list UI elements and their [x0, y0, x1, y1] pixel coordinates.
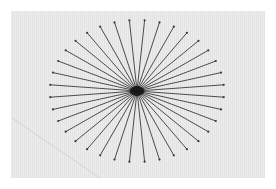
ray-tip-dot: [86, 148, 88, 150]
starburst-ray: [137, 91, 187, 149]
ray-tip-dot: [65, 49, 67, 51]
ray-tip-dot: [144, 161, 146, 163]
starburst-ray: [87, 91, 137, 149]
ray-tip-dot: [173, 154, 175, 156]
starburst-pattern: [0, 0, 276, 189]
starburst-ray: [137, 50, 208, 91]
ray-tip-dot: [220, 72, 222, 74]
ray-tip-dot: [197, 40, 199, 42]
ray-tip-dot: [128, 19, 130, 21]
starburst-ray: [137, 41, 199, 91]
ray-tip-dot: [86, 32, 88, 34]
ray-tip-dot: [207, 49, 209, 51]
starburst-ray: [76, 91, 138, 141]
ray-tip-dot: [49, 84, 51, 86]
ray-tip-dot: [223, 84, 225, 86]
starburst-center: [130, 86, 144, 96]
ray-tip-dot: [158, 21, 160, 23]
starburst-ray: [87, 33, 137, 91]
ray-tip-dot: [113, 21, 115, 23]
ray-tip-dot: [186, 32, 188, 34]
paper-crease: [12, 118, 100, 178]
ray-tip-dot: [173, 26, 175, 28]
ray-tip-dot: [99, 154, 101, 156]
ray-tip-dot: [223, 96, 225, 98]
starburst-ray: [66, 91, 137, 132]
ray-tip-dot: [52, 108, 54, 110]
ray-tip-dot: [74, 40, 76, 42]
starburst-ray: [137, 91, 199, 141]
ray-tip-dot: [113, 159, 115, 161]
ray-tip-dot: [144, 19, 146, 21]
starburst-ray: [137, 91, 208, 132]
ray-tip-dot: [215, 120, 217, 122]
ray-tip-dot: [128, 161, 130, 163]
ray-tip-dot: [49, 96, 51, 98]
ray-tip-dot: [65, 131, 67, 133]
starburst-ray: [137, 33, 187, 91]
ray-tip-dot: [158, 159, 160, 161]
ray-tip-dot: [197, 140, 199, 142]
ray-tip-dot: [57, 120, 59, 122]
ray-tip-dot: [220, 108, 222, 110]
ray-tip-dot: [52, 72, 54, 74]
starburst-ray: [76, 41, 138, 91]
ray-tip-dot: [74, 140, 76, 142]
ray-tip-dot: [215, 60, 217, 62]
ray-tip-dot: [57, 60, 59, 62]
starburst-ray: [66, 50, 137, 91]
ray-tip-dot: [99, 26, 101, 28]
ray-tip-dot: [207, 131, 209, 133]
ray-tip-dot: [186, 148, 188, 150]
